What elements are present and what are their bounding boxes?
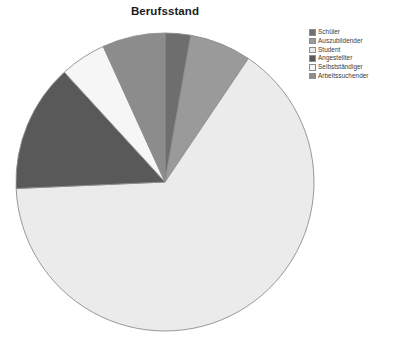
legend-color-swatch xyxy=(309,64,316,71)
legend-item-label: Angestellter xyxy=(318,54,352,63)
legend-item[interactable]: Auszubildender xyxy=(309,37,397,46)
legend-item[interactable]: Student xyxy=(309,46,397,55)
legend-item-label: Selbstständiger xyxy=(318,63,363,72)
legend-color-swatch xyxy=(309,47,316,54)
legend-color-swatch xyxy=(309,55,316,62)
pie-chart-figure: Berufsstand SchülerAuszubildenderStudent… xyxy=(0,0,400,349)
pie-svg xyxy=(15,32,315,332)
legend-item-label: Student xyxy=(318,46,340,55)
legend-item[interactable]: Selbstständiger xyxy=(309,63,397,72)
legend-item[interactable]: Schüler xyxy=(309,28,397,37)
legend-item[interactable]: Arbeitssuchender xyxy=(309,72,397,81)
pie-plot-area xyxy=(15,32,315,332)
legend-item[interactable]: Angestellter xyxy=(309,54,397,63)
chart-legend: SchülerAuszubildenderStudentAngestellter… xyxy=(309,28,397,81)
pie-slice-group xyxy=(16,33,314,331)
legend-color-swatch xyxy=(309,73,316,80)
chart-title: Berufsstand xyxy=(0,5,330,17)
legend-item-label: Auszubildender xyxy=(318,37,363,46)
legend-item-label: Arbeitssuchender xyxy=(318,72,369,81)
legend-color-swatch xyxy=(309,29,316,36)
legend-color-swatch xyxy=(309,38,316,45)
legend-item-label: Schüler xyxy=(318,28,340,37)
